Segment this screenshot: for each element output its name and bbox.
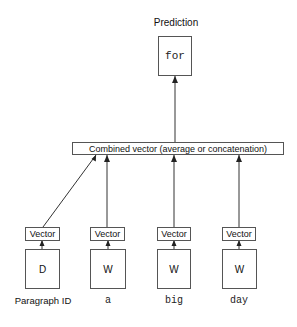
word-matrix-box-2: W <box>157 249 191 289</box>
word-matrix-box-3: W <box>222 249 257 289</box>
matrix-label: D <box>39 264 46 275</box>
vector-label: Vector <box>30 229 56 239</box>
arrow-vector1-to-combined <box>43 155 96 227</box>
vector-box-4: Vector <box>222 227 256 241</box>
prediction-box: for <box>158 36 192 76</box>
vector-box-1: Vector <box>25 227 60 241</box>
input-token-big: big <box>154 295 194 306</box>
vector-box-2: Vector <box>90 227 125 241</box>
prediction-token: for <box>165 50 185 62</box>
combined-vector-box: Combined vector (average or concatenatio… <box>72 142 284 155</box>
vector-label: Vector <box>226 229 252 239</box>
matrix-label: W <box>235 264 244 275</box>
prediction-label: Prediction <box>140 17 212 28</box>
matrix-label: W <box>169 264 178 275</box>
word-matrix-box-1: W <box>90 249 126 289</box>
vector-label: Vector <box>95 229 121 239</box>
input-token-paragraph-id: Paragraph ID <box>2 295 84 306</box>
vector-box-3: Vector <box>157 227 191 241</box>
combined-vector-label: Combined vector (average or concatenatio… <box>89 144 267 154</box>
input-token-day: day <box>219 295 259 306</box>
paragraph-matrix-box: D <box>25 249 60 289</box>
input-token-a: a <box>88 295 128 306</box>
vector-label: Vector <box>161 229 187 239</box>
matrix-label: W <box>103 264 112 275</box>
